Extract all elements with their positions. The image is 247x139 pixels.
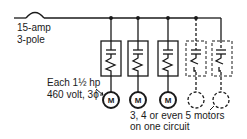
branch-3 [158, 17, 178, 108]
breaker-poles-label: 3-pole [17, 34, 45, 45]
overload-icon [163, 54, 172, 92]
note-circuit-label: on one circuit [130, 121, 190, 132]
motor-label: M [108, 96, 115, 105]
optional-motor-icon [188, 92, 204, 108]
branch-1 [101, 17, 121, 108]
branch-4-optional [186, 17, 206, 108]
breaker-symbol-icon [26, 13, 44, 19]
motor-voltage-label: 460 volt, 3ϕ [47, 89, 99, 100]
breaker-rating-label: 15-amp [17, 22, 51, 33]
starter-box-optional [212, 41, 232, 76]
motor-hp-label: Each 1½ hp [47, 77, 101, 88]
overload-icon [106, 54, 115, 92]
motor-label: M [135, 96, 142, 105]
branch-5-optional [212, 40, 232, 108]
motor-label: M [165, 96, 172, 105]
overload-icon [133, 54, 142, 92]
motor-circuit-diagram: M M M 15-amp 3-pole Each 1½ hp 460 volt,… [0, 0, 247, 139]
optional-motor-icon [213, 92, 229, 108]
branch-2 [128, 17, 148, 108]
note-motors-label: 3, 4 or even 5 motors [130, 110, 225, 121]
